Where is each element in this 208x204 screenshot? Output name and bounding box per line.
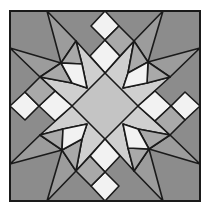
quilt-block	[0, 0, 208, 204]
